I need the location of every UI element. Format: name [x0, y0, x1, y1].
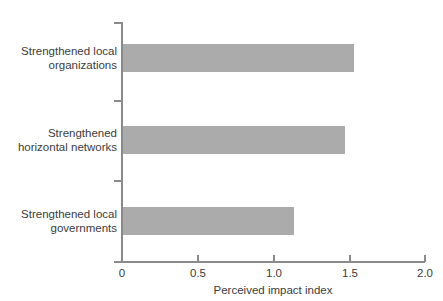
x-axis-title: Perceived impact index	[121, 284, 425, 296]
bar-strengthened-horizontal-networks	[123, 126, 345, 154]
x-axis-tick	[424, 255, 426, 262]
y-axis-tick	[114, 180, 122, 182]
x-tick-label-0: 0	[102, 267, 142, 279]
x-axis-tick	[197, 255, 199, 262]
category-label-strengthened-horizontal-networks: Strengthened horizontal networks	[0, 126, 123, 154]
y-axis-tick	[114, 22, 122, 24]
bar-strengthened-local-organizations	[123, 44, 354, 72]
x-axis-tick	[121, 255, 123, 262]
x-tick-label-4: 2.0	[405, 267, 443, 279]
category-label-strengthened-local-organizations: Strengthened local organizations	[0, 44, 123, 72]
x-tick-label-1: 0.5	[178, 267, 218, 279]
x-tick-label-3: 1.5	[330, 267, 370, 279]
bar-strengthened-local-governments	[123, 207, 294, 235]
x-axis-tick	[273, 255, 275, 262]
category-label-strengthened-local-governments: Strengthened local governments	[0, 207, 123, 235]
y-axis-tick	[114, 100, 122, 102]
x-tick-label-2: 1.0	[254, 267, 294, 279]
bar-chart: Strengthened local organizations Strengt…	[0, 0, 443, 301]
x-axis-tick	[349, 255, 351, 262]
